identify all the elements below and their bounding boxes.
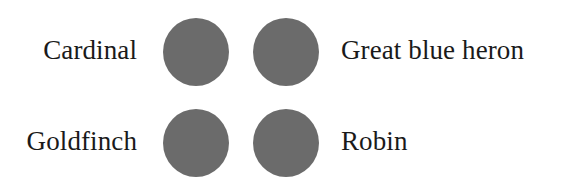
label-goldfinch: Goldfinch — [27, 125, 137, 157]
circle-great-blue-heron — [253, 18, 319, 86]
label-robin: Robin — [341, 125, 408, 157]
label-great-blue-heron: Great blue heron — [341, 34, 524, 66]
circle-goldfinch — [163, 109, 229, 177]
circle-cardinal — [163, 18, 229, 86]
circle-robin — [253, 109, 319, 177]
label-cardinal: Cardinal — [43, 34, 137, 66]
